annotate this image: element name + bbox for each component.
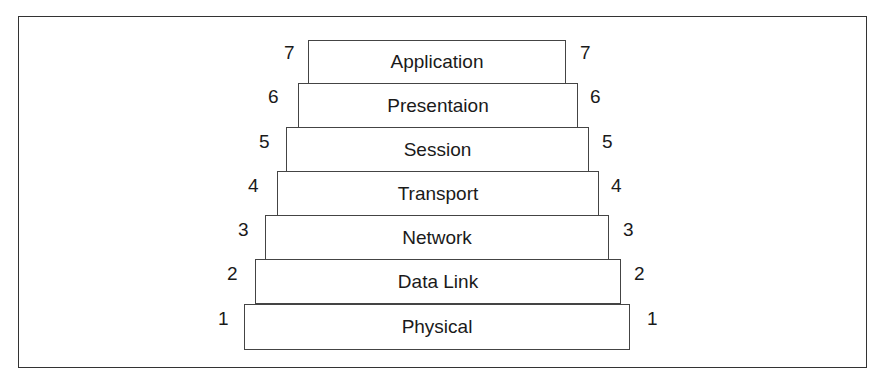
layer-number-right: 6 (590, 87, 601, 107)
layer-label: Data Link (398, 271, 478, 293)
layer-number-left: 7 (284, 43, 295, 63)
layer-label: Session (404, 139, 472, 161)
layer-label: Physical (402, 316, 473, 338)
layer-number-right: 1 (647, 309, 658, 329)
layer-number-right: 4 (611, 176, 622, 196)
layer-application: Application (308, 40, 566, 84)
layer-number-left: 6 (268, 87, 279, 107)
layer-number-right: 3 (623, 220, 634, 240)
layer-number-left: 1 (218, 309, 229, 329)
layer-label: Network (402, 227, 472, 249)
layer-network: Network (265, 215, 609, 260)
layer-number-left: 5 (259, 132, 270, 152)
layer-label: Transport (398, 183, 479, 205)
layer-label: Presentaion (387, 95, 488, 117)
layer-data-link: Data Link (255, 259, 621, 304)
layer-session: Session (286, 127, 589, 172)
layer-number-right: 2 (634, 264, 645, 284)
layer-label: Application (391, 51, 484, 73)
layer-number-left: 4 (248, 176, 259, 196)
layer-number-right: 5 (602, 132, 613, 152)
layer-presentation: Presentaion (298, 83, 578, 128)
layer-number-right: 7 (580, 43, 591, 63)
layer-number-left: 3 (238, 220, 249, 240)
layer-physical: Physical (244, 304, 630, 350)
layer-number-left: 2 (227, 264, 238, 284)
layer-transport: Transport (277, 171, 599, 216)
